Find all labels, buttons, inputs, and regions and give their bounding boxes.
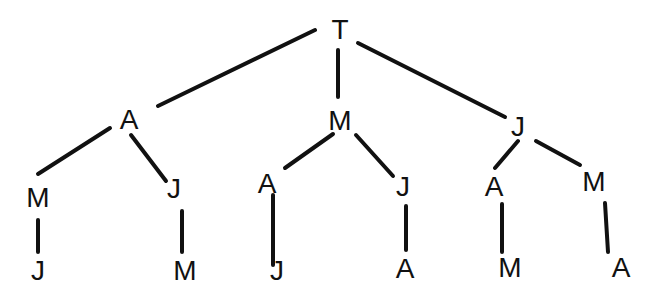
tree-node: J <box>167 175 181 203</box>
tree-edge <box>131 135 166 181</box>
tree-node: M <box>328 107 351 135</box>
tree-edge <box>605 203 608 252</box>
tree-node: T <box>331 16 348 44</box>
tree-node: A <box>258 170 277 198</box>
tree-edge <box>285 134 333 168</box>
tree-edge <box>38 128 110 174</box>
tree-node: A <box>485 173 504 201</box>
tree-node: M <box>498 254 521 282</box>
tree-edge <box>536 141 580 165</box>
tree-node: A <box>120 106 139 134</box>
tree-node: J <box>31 257 45 285</box>
tree-node: A <box>612 254 631 282</box>
tree-edge <box>358 43 505 117</box>
tree-diagram: TAMJMJAJAMJMJAMA <box>0 0 653 304</box>
tree-node: J <box>270 257 284 285</box>
tree-node: M <box>582 168 605 196</box>
tree-edge <box>495 141 518 168</box>
tree-edges <box>0 0 653 304</box>
tree-node: J <box>396 173 410 201</box>
tree-node: J <box>511 113 525 141</box>
tree-node: A <box>396 255 415 283</box>
tree-edge <box>356 135 393 176</box>
tree-node: M <box>173 257 196 285</box>
tree-node: M <box>26 184 49 212</box>
tree-edge <box>158 30 315 106</box>
